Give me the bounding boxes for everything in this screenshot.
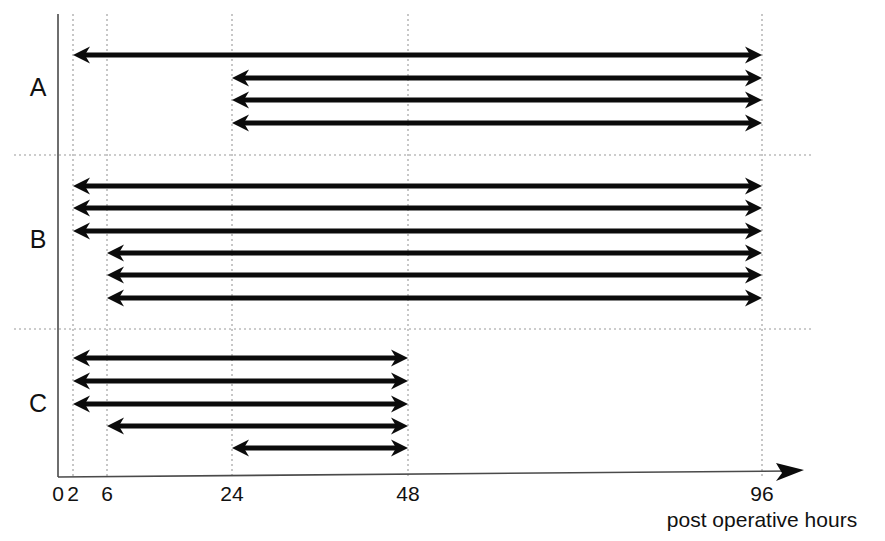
x-tick-label-0: 0 [52,482,64,505]
x-tick-label-24: 24 [220,482,244,505]
group-label-B: B [30,225,47,253]
arrows-layer [73,47,762,457]
interval-group-C [73,350,408,457]
interval-arrow [73,200,762,217]
interval-arrow [232,440,408,457]
x-axis-arrow-icon [776,463,804,481]
group-label-A: A [30,73,47,101]
x-tick-label-48: 48 [396,482,419,505]
axes-layer [58,14,804,481]
interval-arrow [73,396,408,413]
group-label-C: C [29,389,47,417]
interval-arrow [73,373,408,390]
interval-group-B [73,178,762,307]
gridlines-layer [73,14,762,477]
x-tick-label-6: 6 [101,482,113,505]
interval-arrow [107,267,762,284]
interval-arrow [73,223,762,240]
x-axis-line [58,471,790,477]
separators-layer [14,155,812,329]
interval-chart: 026244896 ABC post operative hours [0,0,885,541]
interval-arrow [107,245,762,262]
x-axis-title: post operative hours [667,508,857,531]
interval-arrow [232,115,762,132]
interval-arrow [107,418,408,435]
interval-arrow [73,350,408,367]
interval-group-A [73,47,762,132]
interval-arrow [107,290,762,307]
interval-arrow [73,178,762,195]
interval-arrow [232,70,762,87]
group-labels-layer: ABC [29,73,47,417]
interval-arrow [73,47,762,64]
tick-labels-layer: 026244896 [52,482,774,505]
x-tick-label-96: 96 [750,482,773,505]
chart-container: 026244896 ABC post operative hours [0,0,885,541]
interval-arrow [232,92,762,109]
x-tick-label-2: 2 [67,482,79,505]
